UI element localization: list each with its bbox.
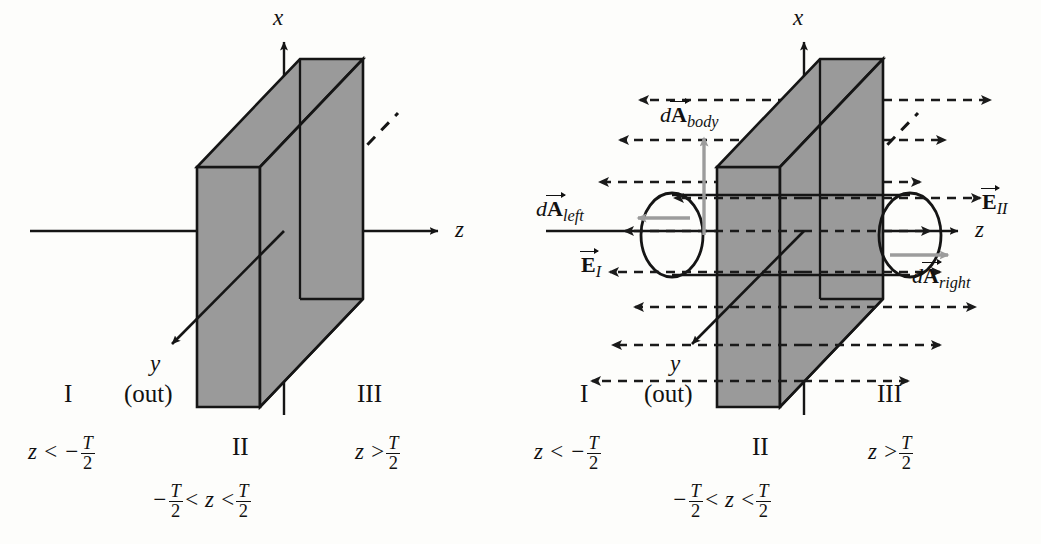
region-I-condition-right: z < −T2 xyxy=(534,434,602,473)
dA-body-label: dAbody xyxy=(660,103,719,130)
panel-slab-only: x z y (out) I II III z < −T2 z >T2 −T2< … xyxy=(0,0,520,544)
z-axis-label-right: z xyxy=(975,218,984,241)
E-I-label: EI xyxy=(581,253,601,280)
dA-right-label: dAright xyxy=(912,264,971,291)
y-axis-label-right: y xyxy=(670,352,680,375)
region-II-condition-right: −T2< z <T2 xyxy=(672,482,772,521)
y-axis-label-left: y xyxy=(150,352,160,375)
region-I-cond-frac: T2 xyxy=(81,434,95,473)
dA-left-sub: left xyxy=(563,206,584,225)
x-axis-label-left: x xyxy=(273,6,283,29)
region-III-cond-prefix-r: z > xyxy=(868,439,898,464)
region-I-condition-left: z < −T2 xyxy=(28,434,96,473)
region-II-label-right: II xyxy=(752,434,769,459)
region-III-cond-prefix: z > xyxy=(355,439,385,464)
panel-gaussian-cylinder: x z y (out) dAbody dAleft dAright EII EI… xyxy=(520,0,1040,544)
dA-left-A: A xyxy=(547,197,563,220)
dA-right-A: A xyxy=(923,264,939,287)
E-I-E: E xyxy=(581,253,596,276)
region-II-cond-mid-r: < z < xyxy=(704,487,756,512)
region-II-cond-lead-r: − xyxy=(672,487,688,512)
E-II-sub: II xyxy=(997,199,1008,218)
region-II-condition-left: −T2< z <T2 xyxy=(152,482,252,521)
region-I-cond-frac-r: T2 xyxy=(587,434,601,473)
x-axis-label-right: x xyxy=(793,6,803,29)
dA-body-sub: body xyxy=(687,112,719,131)
z-axis-label-left: z xyxy=(455,218,464,241)
region-II-cond-frac-a-r: T2 xyxy=(689,482,703,521)
region-II-cond-frac-b-r: T2 xyxy=(756,482,770,521)
region-III-label-left: III xyxy=(357,381,382,406)
dA-body-A: A xyxy=(671,103,687,126)
E-II-E: E xyxy=(982,190,997,213)
region-II-cond-lead: − xyxy=(152,487,168,512)
region-III-condition-right: z >T2 xyxy=(868,434,914,473)
figure-canvas: x z y (out) I II III z < −T2 z >T2 −T2< … xyxy=(0,0,1041,544)
region-I-label-right: I xyxy=(580,381,588,406)
region-I-label-left: I xyxy=(64,381,72,406)
region-III-label-right: III xyxy=(877,381,902,406)
region-II-label-left: II xyxy=(232,434,249,459)
region-III-cond-frac: T2 xyxy=(386,434,400,473)
region-I-cond-prefix-r: z < − xyxy=(534,439,586,464)
region-III-condition-left: z >T2 xyxy=(355,434,401,473)
E-II-label: EII xyxy=(982,190,1008,217)
E-I-sub: I xyxy=(596,262,601,281)
region-II-cond-frac-b: T2 xyxy=(236,482,250,521)
cylinder-left-cap xyxy=(641,193,703,277)
y-out-note-right: (out) xyxy=(644,381,693,406)
region-III-cond-frac-r: T2 xyxy=(899,434,913,473)
region-I-cond-prefix: z < − xyxy=(28,439,80,464)
y-out-note-left: (out) xyxy=(124,381,173,406)
region-II-cond-mid: < z < xyxy=(184,487,236,512)
dA-left-label: dAleft xyxy=(536,197,584,224)
region-II-cond-frac-a: T2 xyxy=(169,482,183,521)
dA-right-sub: right xyxy=(939,273,971,292)
